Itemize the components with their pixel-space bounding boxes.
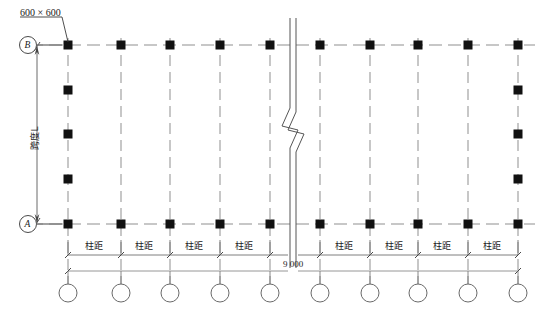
column-size-note: 600 × 600 [20,8,61,18]
break-line [282,18,304,268]
bay-label-1: 柱距 [85,242,104,251]
bay-label-5: 柱距 [335,242,354,251]
grid-lines-horizontal [30,45,535,224]
bay-label-6: 柱距 [385,242,404,251]
bay-dimension-line [65,240,521,258]
bay-label-8: 柱距 [483,242,502,251]
bubble-b-label: B [25,41,31,51]
columns-left-edge [64,86,73,184]
center-dimension-label: 9 000 [283,260,303,269]
column-layout-drawing: 600 × 600 B A 跨度L 柱距 柱距 柱距 柱距 柱距 柱距 柱距 柱… [0,0,541,314]
span-label: 跨度L [31,126,40,150]
bubble-extension-lines [68,271,518,284]
grid-bubbles-bottom [59,284,527,302]
plan-canvas [0,0,541,314]
bay-label-7: 柱距 [433,242,452,251]
bubble-a-label: A [25,220,31,230]
bay-label-4: 柱距 [235,242,254,251]
bay-label-3: 柱距 [185,242,204,251]
bay-label-2: 柱距 [135,242,154,251]
grid-lines-vertical [68,38,518,292]
columns-right-edge [514,86,523,184]
